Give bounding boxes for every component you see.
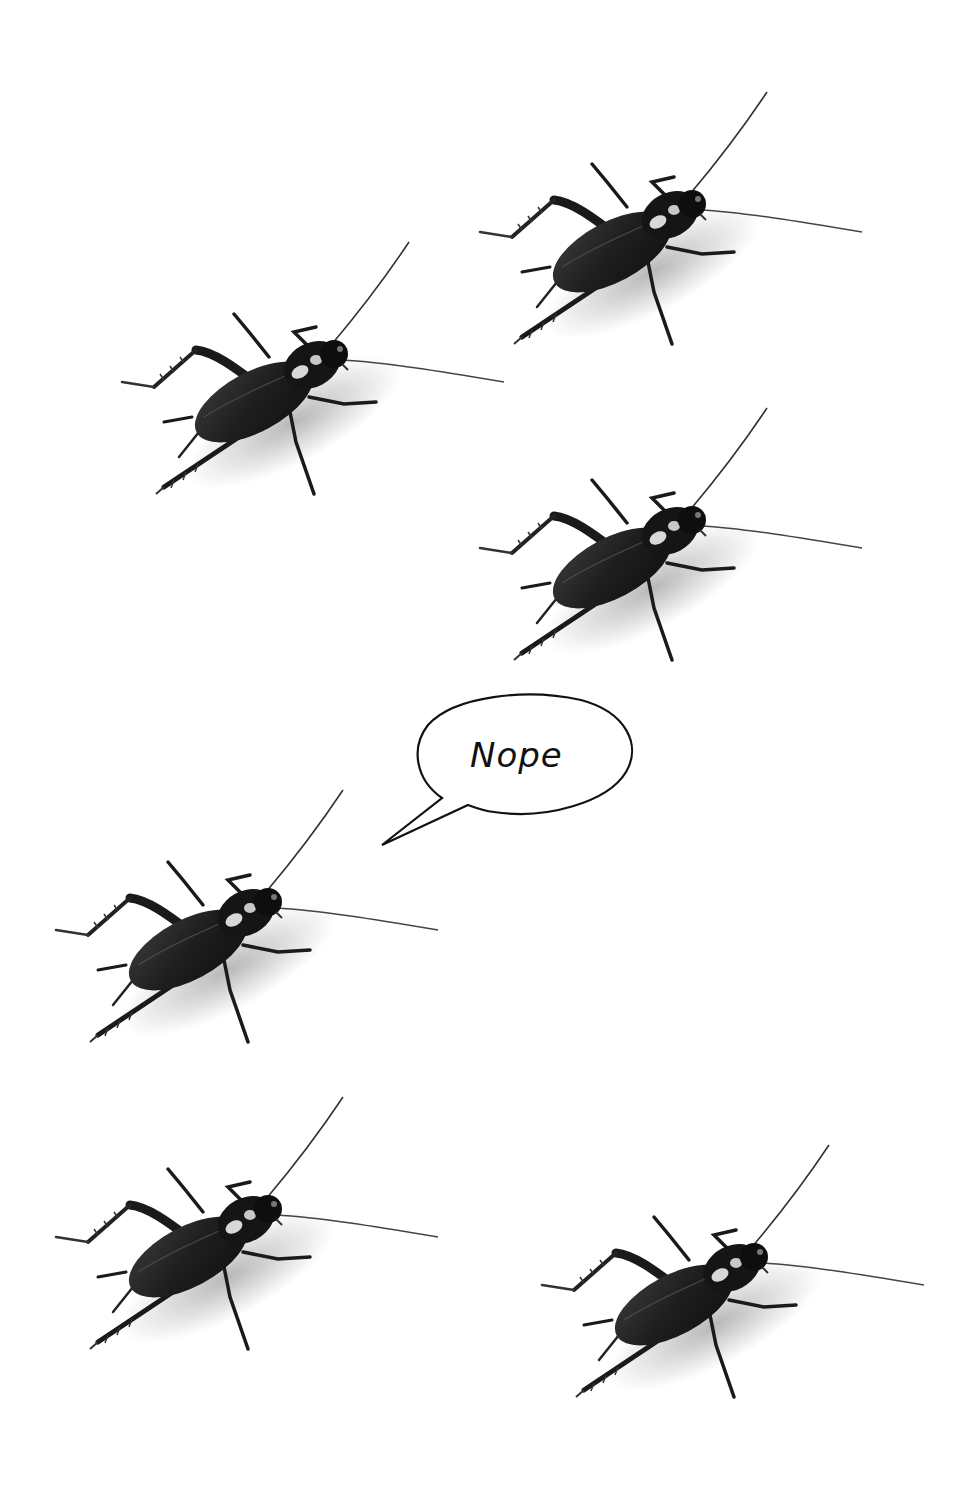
cricket-image-middle-right: [462, 398, 882, 678]
cricket-image-upper-left: [104, 232, 524, 512]
cricket-icon: [104, 232, 524, 512]
cricket-icon: [38, 1087, 458, 1367]
cricket-image-bottom-left: [38, 1087, 458, 1367]
cricket-icon: [462, 82, 882, 362]
cricket-icon: [462, 398, 882, 678]
speech-bubble-text: Nope: [470, 735, 563, 775]
cricket-image-top-right: [462, 82, 882, 362]
cricket-icon: [524, 1135, 944, 1415]
cricket-image-bottom-right: [524, 1135, 944, 1415]
